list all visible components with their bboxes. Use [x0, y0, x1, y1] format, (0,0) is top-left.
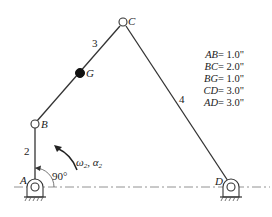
center-of-mass-g — [76, 69, 85, 78]
svg-text:BC: BC — [205, 61, 219, 72]
svg-text:AD: AD — [203, 97, 218, 108]
svg-text:= 1.0": = 1.0" — [218, 49, 244, 60]
label-angle: 90° — [52, 170, 67, 182]
dimension-table: AB = 1.0" BC = 2.0" BG = 1.0" CD = 3.0" … — [203, 49, 244, 108]
rotation-arrowhead-icon — [54, 145, 62, 152]
svg-text:BG: BG — [204, 73, 218, 84]
svg-text:= 2.0": = 2.0" — [218, 61, 244, 72]
linkage-svg: C G B A D 3 2 4 90° ω2, α2 AB = 1.0" BC … — [0, 0, 272, 217]
svg-text:AB: AB — [204, 49, 218, 60]
label-link-3: 3 — [92, 37, 98, 49]
label-d: D — [214, 175, 223, 187]
ground-pivot-d — [220, 179, 242, 201]
svg-text:CD: CD — [203, 85, 218, 96]
label-g: G — [86, 67, 94, 79]
svg-text:= 3.0": = 3.0" — [218, 97, 244, 108]
angle-arrowhead-icon — [35, 166, 41, 172]
svg-text:= 1.0": = 1.0" — [218, 73, 244, 84]
label-a: A — [19, 174, 27, 186]
joint-b — [31, 120, 39, 128]
label-c: C — [128, 15, 136, 27]
label-link-2: 2 — [24, 145, 30, 157]
rotation-arrow — [57, 148, 77, 170]
ground-pivot-a — [24, 179, 46, 201]
joint-c — [119, 18, 127, 26]
linkage-diagram: C G B A D 3 2 4 90° ω2, α2 AB = 1.0" BC … — [0, 0, 272, 217]
label-omega-alpha: ω2, α2 — [76, 156, 103, 170]
label-b: B — [41, 118, 48, 130]
svg-text:= 3.0": = 3.0" — [218, 85, 244, 96]
label-link-4: 4 — [179, 93, 185, 105]
